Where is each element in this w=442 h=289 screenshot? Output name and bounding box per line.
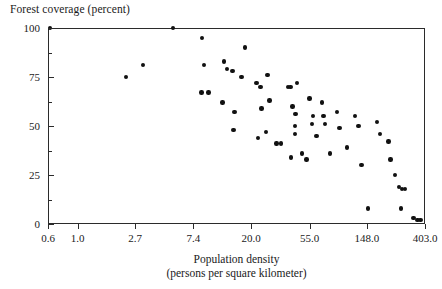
x-axis-caption: Population density (persons per square k… [48, 252, 425, 280]
scatter-plot-figure: Forest coverage (percent) 0255075100 Pop… [0, 0, 442, 289]
x-axis-tick-label: 0.6 [41, 232, 55, 244]
x-axis-tick [310, 224, 311, 229]
x-axis-tick [367, 224, 368, 229]
x-axis-tick [251, 224, 252, 229]
y-axis-minor-tick [48, 53, 52, 54]
x-axis-tick-label: 7.4 [187, 232, 201, 244]
y-axis-tick-label: 50 [0, 120, 40, 132]
x-axis-tick [193, 224, 194, 229]
y-axis-tick-label: 75 [0, 71, 40, 83]
x-axis-tick-label: 55.0 [300, 232, 319, 244]
x-axis-tick-label: 1.0 [71, 232, 85, 244]
y-axis-tick-label: 25 [0, 169, 40, 181]
y-axis-tick [48, 175, 54, 176]
x-axis-tick [135, 224, 136, 229]
y-axis-minor-tick [48, 102, 52, 103]
y-axis-tick-label: 0 [0, 218, 40, 230]
y-axis-minor-tick [48, 151, 52, 152]
x-axis-label: Population density [48, 252, 425, 266]
x-axis-tick-label: 20.0 [241, 232, 260, 244]
y-axis-tick-labels: 0255075100 [0, 0, 40, 289]
plot-frame [48, 28, 425, 224]
y-axis-tick [48, 28, 54, 29]
x-axis-tick [48, 224, 49, 229]
y-axis-tick [48, 77, 54, 78]
x-axis-sublabel: (persons per square kilometer) [48, 266, 425, 280]
y-axis-minor-tick [48, 200, 52, 201]
x-axis-tick-label: 2.7 [128, 232, 142, 244]
y-axis-tick [48, 126, 54, 127]
x-axis-tick [78, 224, 79, 229]
x-axis-tick-label: 403.0 [413, 232, 438, 244]
y-axis-tick-label: 100 [0, 22, 40, 34]
x-axis-tick-label: 148.0 [355, 232, 380, 244]
x-axis-tick [425, 224, 426, 229]
